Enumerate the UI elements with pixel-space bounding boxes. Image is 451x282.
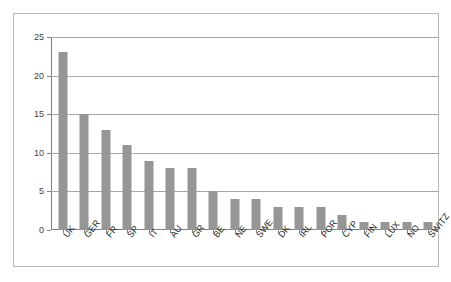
bar-au[interactable] — [166, 168, 175, 230]
bar-slot — [203, 37, 225, 230]
y-tick-mark-5 — [47, 191, 51, 192]
x-label-slot: FIN — [354, 230, 376, 280]
x-label-slot: DK — [268, 230, 290, 280]
bar-slot — [289, 37, 311, 230]
y-tick-mark-0 — [47, 230, 51, 231]
x-label-slot: POR — [311, 230, 333, 280]
x-label-slot: IRL — [290, 230, 312, 280]
bar-slot — [418, 37, 440, 230]
x-label-slot: AU — [161, 230, 183, 280]
x-label-slot: NE — [225, 230, 247, 280]
bar-ger[interactable] — [80, 114, 89, 230]
bar-slot — [160, 37, 182, 230]
y-tick-mark-15 — [47, 114, 51, 115]
x-label-slot: FR — [96, 230, 118, 280]
y-tick-label-5: 5 — [39, 187, 44, 196]
bar-slot — [117, 37, 139, 230]
bar-be[interactable] — [209, 191, 218, 230]
bar-it[interactable] — [144, 161, 153, 230]
bar-slot — [52, 37, 74, 230]
plot-area: 0510152025 — [51, 37, 439, 230]
bar-slot — [74, 37, 96, 230]
bar-slot — [138, 37, 160, 230]
y-tick-label-0: 0 — [39, 226, 44, 235]
x-label-slot: GER — [75, 230, 97, 280]
x-label-slot: SWE — [247, 230, 269, 280]
x-label-slot: SWITZ — [419, 230, 441, 280]
bar-slot — [267, 37, 289, 230]
x-label-slot: GR — [182, 230, 204, 280]
x-label-slot: UK — [53, 230, 75, 280]
bar-slot — [396, 37, 418, 230]
bar-uk[interactable] — [58, 52, 67, 230]
chart-figure-frame: 0510152025 UKGERFRSPITAUGRBENESWEDKIRLPO… — [13, 13, 439, 267]
bar-slot — [95, 37, 117, 230]
x-label-slot: BE — [204, 230, 226, 280]
y-tick-mark-25 — [47, 37, 51, 38]
y-tick-label-15: 15 — [34, 110, 44, 119]
x-label-slot: LUX — [376, 230, 398, 280]
bar-fr[interactable] — [101, 130, 110, 230]
x-axis-label-it: IT — [148, 228, 160, 240]
bar-slot — [310, 37, 332, 230]
bar-slot — [332, 37, 354, 230]
bar-slot — [224, 37, 246, 230]
x-label-slot: CYP — [333, 230, 355, 280]
y-tick-label-20: 20 — [34, 71, 44, 80]
y-tick-label-25: 25 — [34, 33, 44, 42]
bars-group — [52, 37, 439, 230]
bar-slot — [246, 37, 268, 230]
x-label-slot: NO — [397, 230, 419, 280]
bar-slot — [375, 37, 397, 230]
bar-gr[interactable] — [187, 168, 196, 230]
x-label-slot: SP — [118, 230, 140, 280]
y-tick-mark-10 — [47, 153, 51, 154]
bar-slot — [181, 37, 203, 230]
x-label-slot: IT — [139, 230, 161, 280]
bar-slot — [353, 37, 375, 230]
y-tick-label-10: 10 — [34, 148, 44, 157]
bar-sp[interactable] — [123, 145, 132, 230]
x-axis-labels-group: UKGERFRSPITAUGRBENESWEDKIRLPORCYPFINLUXN… — [52, 230, 440, 280]
y-tick-mark-20 — [47, 76, 51, 77]
